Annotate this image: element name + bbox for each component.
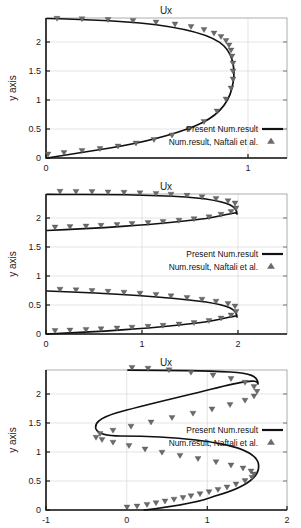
y-tick-label-1-0: 0 <box>36 153 41 163</box>
y-tick-label-3-1: 0.5 <box>28 476 41 486</box>
y-tick-label-1-2: 1 <box>36 95 41 105</box>
chart-title-3: Ux <box>160 357 172 368</box>
legend-label-marker-1: Num.result, Naftali et al. <box>169 137 258 147</box>
x-tick-label-2-2: 2 <box>235 339 240 349</box>
x-tick-label-3-3: 2 <box>284 515 289 525</box>
x-tick-label-3-1: 0 <box>124 515 129 525</box>
chart-panel-1: 0 0.5 1 1.5 2 0 1 y axis Ux <box>0 0 301 176</box>
y-tick-label-2-3: 1.5 <box>28 242 41 252</box>
chart-title-2: Ux <box>160 181 172 192</box>
y-tick-label-1-3: 1.5 <box>28 66 41 76</box>
legend-label-line-3: Present Num.result <box>186 425 258 435</box>
y-axis-title-1: y axis <box>7 75 18 101</box>
chart-svg-3: 0 0.5 1 1.5 2 -1 0 1 2 y axis Ux <box>0 352 301 528</box>
y-axis-title-3: y axis <box>7 427 18 453</box>
legend-label-marker-2: Num.result, Naftali et al. <box>169 262 258 272</box>
y-tick-label-3-4: 2 <box>36 389 41 399</box>
x-tick-label-1-1: 1 <box>245 163 250 173</box>
x-tick-label-3-0: -1 <box>42 515 50 525</box>
chart-title-1: Ux <box>160 5 172 16</box>
y-tick-label-3-3: 1.5 <box>28 418 41 428</box>
x-tick-label-2-1: 1 <box>139 339 144 349</box>
chart-svg-1: 0 0.5 1 1.5 2 0 1 y axis Ux <box>0 0 301 176</box>
chart-panel-2: 0 0.5 1 1.5 2 0 1 2 y axis Ux <box>0 176 301 352</box>
chart-svg-2: 0 0.5 1 1.5 2 0 1 2 y axis Ux <box>0 176 301 352</box>
y-tick-label-1-4: 2 <box>36 37 41 47</box>
legend-label-line-2: Present Num.result <box>186 249 258 259</box>
legend-label-marker-3: Num.result, Naftali et al. <box>169 438 258 448</box>
y-tick-label-2-1: 0.5 <box>28 300 41 310</box>
y-tick-label-3-0: 0 <box>36 505 41 515</box>
y-tick-label-2-2: 1 <box>36 271 41 281</box>
y-tick-label-3-2: 1 <box>36 447 41 457</box>
x-tick-label-1-0: 0 <box>43 163 48 173</box>
x-tick-label-3-2: 1 <box>205 515 210 525</box>
y-tick-label-2-0: 0 <box>36 329 41 339</box>
y-tick-label-1-1: 0.5 <box>28 124 41 134</box>
chart-panel-3: 0 0.5 1 1.5 2 -1 0 1 2 y axis Ux <box>0 352 301 528</box>
legend-label-line-1: Present Num.result <box>186 124 258 134</box>
y-axis-title-2: y axis <box>7 251 18 277</box>
y-tick-label-2-4: 2 <box>36 213 41 223</box>
x-tick-label-2-0: 0 <box>43 339 48 349</box>
